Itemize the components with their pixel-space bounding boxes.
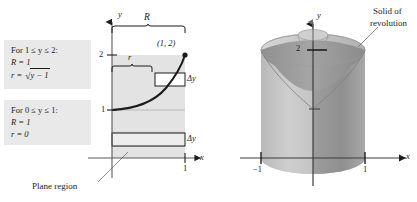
brace-label-R: R xyxy=(144,12,150,22)
plane-region-panel: For 1 ≤ y ≤ 2: R = 1 r = √y − 1 For 0 ≤ … xyxy=(0,0,210,202)
point-label-1-2: (1, 2) xyxy=(157,38,175,48)
y-tick-label-2: 2 xyxy=(296,43,300,53)
y-tick-label-1: 1 xyxy=(101,104,105,114)
solid-caption-line1: Solid of xyxy=(373,6,402,16)
x-axis-label: x xyxy=(406,151,410,161)
slice-label-delta-y-lower: Δy xyxy=(187,133,196,143)
x-tick-label-1: 1 xyxy=(363,164,367,174)
solid-caption-line2: revolution xyxy=(370,18,407,28)
y-tick-label-2: 2 xyxy=(99,49,103,59)
inner-radius-prefix: r = xyxy=(11,70,24,80)
solid-of-revolution-panel: y x 2 −1 1 Solid of revolution xyxy=(210,0,417,202)
lower-case-condition: For 0 ≤ y ≤ 1: xyxy=(11,104,85,116)
upper-case-inner-radius: r = √y − 1 xyxy=(11,68,85,83)
brace-outer-radius-R xyxy=(112,24,185,33)
annotation-box-lower-case: For 0 ≤ y ≤ 1: R = 1 r = 0 xyxy=(4,100,91,145)
lower-case-outer-radius: R = 1 xyxy=(11,116,85,128)
lower-case-inner-radius: r = 0 xyxy=(11,128,85,140)
point-1-2-marker xyxy=(182,52,187,57)
brace-label-r: r xyxy=(128,52,131,62)
x-tick-label-1: 1 xyxy=(183,163,187,173)
sqrt-icon: √y − 1 xyxy=(24,68,49,83)
slice-rect-lower xyxy=(112,133,185,146)
x-axis-label: x xyxy=(200,152,204,162)
annotation-box-upper-case: For 1 ≤ y ≤ 2: R = 1 r = √y − 1 xyxy=(4,40,91,89)
y-axis-label: y xyxy=(317,10,321,20)
upper-case-condition: For 1 ≤ y ≤ 2: xyxy=(11,44,85,56)
radicand: y − 1 xyxy=(30,68,50,81)
y-axis-label: y xyxy=(118,9,122,19)
x-tick-label-minus-1: −1 xyxy=(253,164,262,174)
slice-label-delta-y-upper: Δy xyxy=(187,73,196,83)
upper-case-outer-radius: R = 1 xyxy=(11,56,85,68)
solid-of-revolution-graphic xyxy=(210,0,417,202)
plane-region-caption: Plane region xyxy=(32,181,77,191)
solid-caption-leader-line xyxy=(358,27,378,47)
